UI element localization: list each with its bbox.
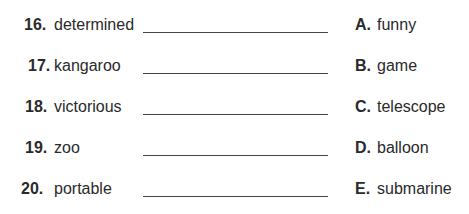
exercise-row: 16. determined A. funny: [0, 16, 469, 46]
choice-letter: C.: [355, 98, 371, 116]
choice-letter: E.: [355, 180, 370, 198]
exercise-row: 17. kangaroo B. game: [0, 57, 469, 87]
item-word: determined: [54, 16, 134, 34]
answer-blank[interactable]: [143, 196, 328, 197]
item-number: 17.: [28, 57, 50, 75]
answer-blank[interactable]: [143, 73, 328, 74]
item-word: kangaroo: [54, 57, 121, 75]
answer-blank[interactable]: [143, 32, 328, 33]
exercise-row: 18. victorious C. telescope: [0, 98, 469, 128]
item-word: victorious: [54, 98, 122, 116]
choice-letter: A.: [355, 16, 371, 34]
item-word: zoo: [54, 139, 80, 157]
answer-blank[interactable]: [143, 155, 328, 156]
choice-word: game: [377, 57, 417, 75]
choice-letter: B.: [355, 57, 371, 75]
choice-word: submarine: [377, 180, 452, 198]
choice-word: balloon: [377, 139, 429, 157]
exercise-row: 20. portable E. submarine: [0, 180, 469, 210]
choice-word: telescope: [377, 98, 446, 116]
answer-blank[interactable]: [143, 114, 328, 115]
choice-letter: D.: [355, 139, 371, 157]
item-number: 16.: [24, 16, 46, 34]
choice-word: funny: [377, 16, 416, 34]
item-number: 18.: [25, 98, 47, 116]
item-word: portable: [54, 180, 112, 198]
item-number: 19.: [25, 139, 47, 157]
exercise-row: 19. zoo D. balloon: [0, 139, 469, 169]
item-number: 20.: [21, 180, 43, 198]
